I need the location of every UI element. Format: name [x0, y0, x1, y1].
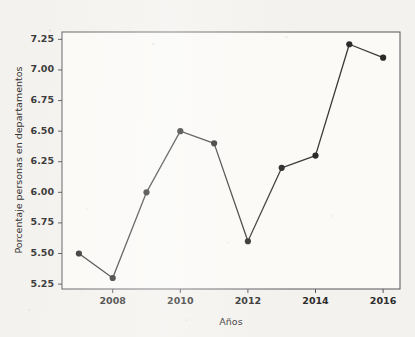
- circle-marker-icon: [312, 153, 318, 159]
- circle-marker-icon: [143, 189, 149, 195]
- circle-marker-icon: [279, 165, 285, 171]
- x-tick-label: 2008: [99, 295, 126, 306]
- y-tick-label: 7.25: [31, 33, 54, 44]
- chart-canvas: 5.255.505.756.006.256.506.757.007.25 200…: [0, 0, 415, 337]
- x-tick-label: 2010: [167, 295, 194, 306]
- circle-marker-icon: [211, 140, 217, 146]
- circle-marker-icon: [245, 238, 251, 244]
- y-tick-label: 7.00: [31, 63, 55, 74]
- circle-marker-icon: [380, 55, 386, 61]
- y-tick-label: 5.25: [31, 278, 54, 289]
- line-chart-figure: 5.255.505.756.006.256.506.757.007.25 200…: [0, 0, 415, 337]
- y-axis-title: Porcentaje personas en departamentos: [13, 66, 24, 253]
- y-tick-label: 5.75: [31, 216, 54, 227]
- circle-marker-icon: [76, 250, 82, 256]
- circle-marker-icon: [177, 128, 183, 134]
- x-axis-ticks: 20082010201220142016: [99, 289, 396, 306]
- y-axis-ticks: 5.255.505.756.006.256.506.757.007.25: [31, 33, 62, 289]
- x-tick-label: 2012: [235, 295, 261, 306]
- y-tick-label: 5.50: [31, 247, 55, 258]
- x-axis-title: Años: [219, 316, 242, 327]
- plot-area-background: [62, 32, 400, 289]
- x-tick-label: 2016: [370, 295, 397, 306]
- circle-marker-icon: [346, 41, 352, 47]
- y-tick-label: 6.50: [31, 125, 55, 136]
- y-tick-label: 6.25: [31, 155, 54, 166]
- circle-marker-icon: [110, 275, 116, 281]
- x-tick-label: 2014: [302, 295, 329, 306]
- y-tick-label: 6.75: [31, 94, 54, 105]
- y-tick-label: 6.00: [31, 186, 55, 197]
